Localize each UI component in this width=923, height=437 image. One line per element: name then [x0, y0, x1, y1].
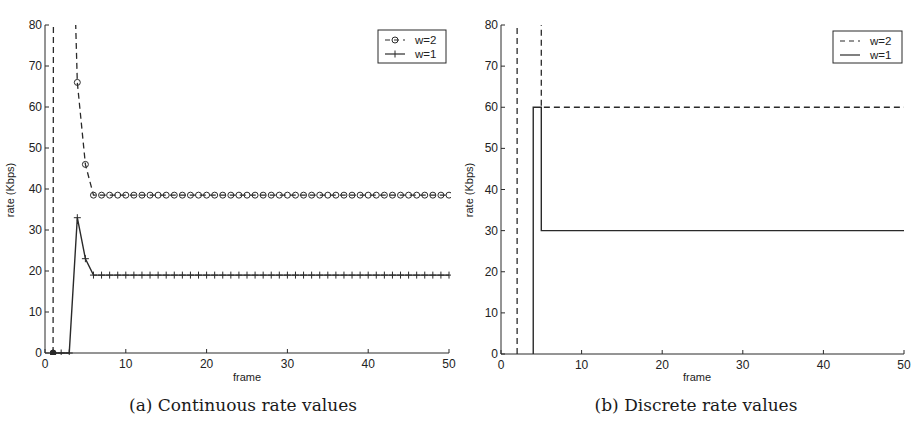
data-point-plus [155, 272, 162, 279]
data-point-plus [90, 272, 97, 279]
x-tick-label: 30 [281, 357, 295, 371]
data-point-plus [171, 272, 178, 279]
data-point-plus [138, 272, 145, 279]
data-point-plus [235, 272, 242, 279]
x-tick-label: 0 [498, 358, 505, 372]
data-point-plus [74, 214, 81, 221]
data-point-plus [114, 272, 121, 279]
legend-label: w=1 [414, 48, 436, 60]
x-tick-label: 10 [119, 357, 133, 371]
data-point-plus [163, 272, 170, 279]
data-point-plus [195, 272, 202, 279]
y-tick-label: 70 [29, 59, 43, 73]
data-point-plus [324, 272, 331, 279]
x-axis-label-b: frame [683, 371, 711, 383]
data-point-plus [219, 272, 226, 279]
data-point-plus [227, 272, 234, 279]
caption-b: (b) Discrete rate values [595, 395, 798, 415]
y-axis-label-b: rate (Kbps) [463, 163, 475, 217]
data-point-plus [300, 272, 307, 279]
data-point-plus [82, 255, 89, 262]
data-point-plus [292, 272, 299, 279]
y-tick-label: 60 [29, 100, 43, 114]
y-tick-label: 20 [29, 264, 43, 278]
y-tick-label: 30 [485, 224, 499, 238]
x-tick-label: 20 [200, 357, 214, 371]
data-point-plus [381, 272, 388, 279]
data-point-plus [284, 272, 291, 279]
panel-discrete-rate: 0102030405060708001020304050 w=2w=1 fram… [463, 0, 911, 415]
data-point-plus [106, 272, 113, 279]
x-tick-label: 20 [656, 358, 670, 372]
data-point-plus [413, 272, 420, 279]
data-point-plus [308, 272, 315, 279]
data-point-plus [332, 272, 339, 279]
data-point-plus [66, 350, 73, 357]
y-axis-label-a: rate (Kbps) [4, 163, 16, 217]
data-point-plus [421, 272, 428, 279]
data-point-plus [405, 272, 412, 279]
y-tick-label: 80 [485, 18, 499, 32]
data-point-plus [276, 272, 283, 279]
x-tick-label: 50 [897, 358, 911, 372]
x-tick-label: 50 [442, 357, 456, 371]
data-point-plus [179, 272, 186, 279]
x-tick-label: 0 [42, 357, 49, 371]
data-point-plus [260, 272, 267, 279]
data-point-plus [58, 350, 65, 357]
data-point-plus [122, 272, 129, 279]
data-point-plus [373, 272, 380, 279]
data-point-plus [316, 272, 323, 279]
y-tick-label: 20 [485, 265, 499, 279]
y-tick-label: 70 [485, 59, 499, 73]
legend-b: w=2w=1 [833, 31, 902, 63]
data-point-plus [437, 272, 444, 279]
data-point-plus [268, 272, 275, 279]
axes-b: 0102030405060708001020304050 [485, 18, 911, 372]
y-tick-label: 60 [485, 100, 499, 114]
data-point-plus [252, 272, 259, 279]
y-tick-label: 80 [29, 18, 43, 32]
y-tick-label: 10 [485, 306, 499, 320]
legend-label: w=1 [869, 49, 891, 61]
data-point-plus [203, 272, 210, 279]
legend-label: w=2 [869, 35, 891, 47]
data-point-plus [211, 272, 218, 279]
data-point-plus [357, 272, 364, 279]
data-point-plus [130, 272, 137, 279]
x-tick-label: 10 [575, 358, 589, 372]
data-point-plus [187, 272, 194, 279]
y-tick-label: 30 [29, 223, 43, 237]
legend-box [833, 31, 902, 63]
y-tick-label: 50 [29, 141, 43, 155]
panel-continuous-rate: 0102030405060708001020304050 w=2w=1 fram… [4, 0, 456, 415]
data-point-plus [365, 272, 372, 279]
x-tick-label: 40 [362, 357, 376, 371]
y-tick-label: 40 [485, 183, 499, 197]
x-axis-label-a: frame [233, 371, 261, 383]
data-point-plus [147, 272, 154, 279]
data-point-plus [429, 272, 436, 279]
data-point-plus [349, 272, 356, 279]
series-line-w1 [53, 218, 449, 353]
data-point-circle [446, 192, 452, 198]
data-point-plus [244, 272, 251, 279]
y-tick-label: 50 [485, 141, 499, 155]
y-tick-label: 40 [29, 182, 43, 196]
data-point-plus [397, 272, 404, 279]
x-tick-label: 40 [817, 358, 831, 372]
caption-a: (a) Continuous rate values [129, 395, 357, 415]
x-tick-label: 30 [736, 358, 750, 372]
legend-a: w=2w=1 [378, 30, 446, 63]
data-point-plus [389, 272, 396, 279]
data-point-plus [340, 272, 347, 279]
series-line-w1 [533, 107, 904, 354]
y-tick-label: 10 [29, 305, 43, 319]
figure: 0102030405060708001020304050 w=2w=1 fram… [0, 0, 923, 437]
data-point-plus [446, 272, 453, 279]
data-point-plus [98, 272, 105, 279]
legend-label: w=2 [414, 34, 436, 46]
